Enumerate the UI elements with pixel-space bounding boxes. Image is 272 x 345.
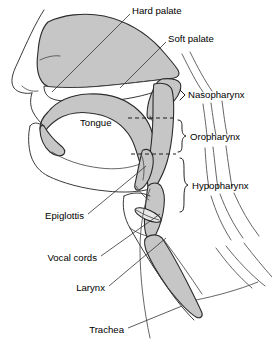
nasopharynx-caret-icon xyxy=(180,90,185,100)
nasal-cavity-group xyxy=(37,14,179,89)
tongue-base-wedge xyxy=(40,125,65,156)
label-epiglottis: Epiglottis xyxy=(45,210,84,221)
vertebra-line-5 xyxy=(222,101,227,134)
trachea-shape xyxy=(145,235,203,318)
label-vocal-cords: Vocal cords xyxy=(47,252,97,263)
region-markers-group xyxy=(178,90,188,212)
larynx-anterior-contour xyxy=(123,196,130,228)
airway-diagram-svg: Hard palate Soft palate Nasopharynx Orop… xyxy=(0,0,272,345)
tongue-shape xyxy=(40,94,154,169)
vertebra-line-13 xyxy=(226,246,265,286)
anatomy-diagram: Hard palate Soft palate Nasopharynx Orop… xyxy=(0,0,272,345)
oropharynx-brace-icon xyxy=(178,120,186,152)
vertebra-line-2 xyxy=(190,52,212,91)
vertebra-line-10 xyxy=(220,194,243,238)
label-larynx: Larynx xyxy=(76,282,105,293)
vertebra-line-9 xyxy=(211,196,231,240)
nasal-cavity-shape xyxy=(37,14,179,89)
label-nasopharynx: Nasopharynx xyxy=(188,89,245,100)
vertebra-line-1 xyxy=(182,54,203,92)
label-hard-palate: Hard palate xyxy=(132,5,182,16)
label-oropharynx: Oropharynx xyxy=(190,131,240,142)
tongue-group xyxy=(40,94,154,169)
vertebra-line-12 xyxy=(216,248,252,288)
trachea-leader xyxy=(128,306,182,328)
label-hypopharynx: Hypopharynx xyxy=(192,180,249,191)
nostril-curve xyxy=(22,86,38,91)
label-tongue: Tongue xyxy=(80,117,111,128)
label-trachea: Trachea xyxy=(89,324,125,335)
vertebra-line-14 xyxy=(244,243,272,277)
hypopharynx-brace-icon xyxy=(180,158,188,212)
floor-of-mouth xyxy=(52,152,140,169)
label-soft-palate: Soft palate xyxy=(168,33,214,44)
